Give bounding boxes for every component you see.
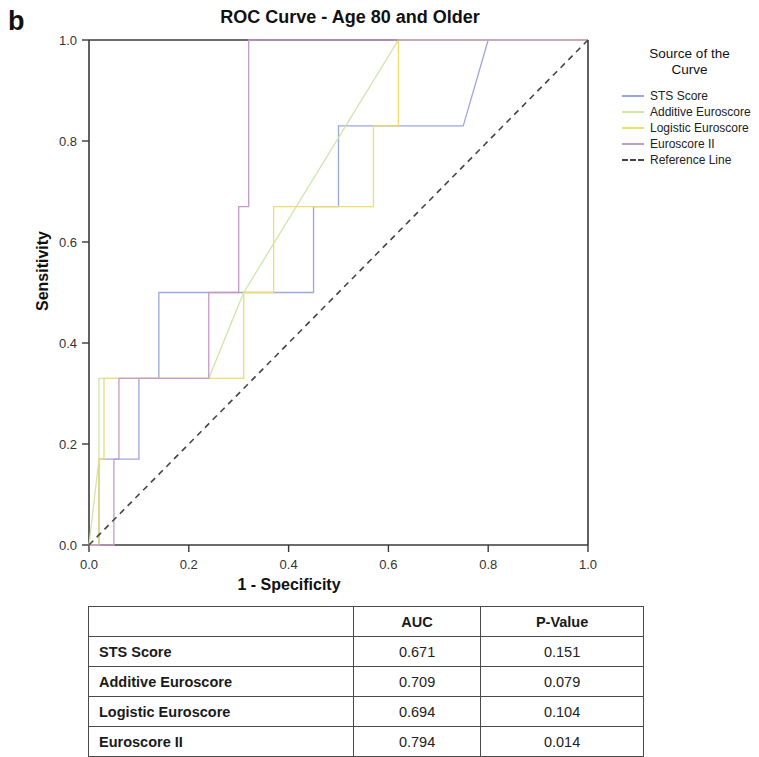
x-tick-label: 0.8 <box>479 557 497 572</box>
legend-item-label: Reference Line <box>650 153 731 167</box>
x-tick-label: 1.0 <box>579 557 597 572</box>
table-cell-auc: 0.709 <box>354 667 481 697</box>
y-axis-title: Sensitivity <box>34 206 52 336</box>
table-cell-model-name: Logistic Euroscore <box>89 697 354 727</box>
y-tick-label: 0.6 <box>59 235 77 250</box>
legend-item-sts-score[interactable]: STS Score <box>622 88 757 103</box>
legend-title: Source of the Curve <box>622 46 757 78</box>
legend-item-reference-line[interactable]: Reference Line <box>622 152 757 167</box>
y-tick-label: 0.4 <box>59 336 77 351</box>
legend-swatch-icon <box>622 127 644 129</box>
table-row: Additive Euroscore0.7090.079 <box>89 667 644 697</box>
legend-title-line1: Source of the <box>622 46 757 62</box>
table-row: STS Score0.6710.151 <box>89 637 644 667</box>
table-cell-model-name: STS Score <box>89 637 354 667</box>
legend-swatch-icon <box>622 95 644 97</box>
legend-item-logistic-euroscore[interactable]: Logistic Euroscore <box>622 120 757 135</box>
legend-item-euroscore-ii[interactable]: Euroscore II <box>622 136 757 151</box>
table-cell-auc: 0.671 <box>354 637 481 667</box>
auc-table: AUC P-Value STS Score0.6710.151Additive … <box>88 606 644 757</box>
x-tick-label: 0.0 <box>80 557 98 572</box>
legend-swatch-icon <box>622 111 644 113</box>
legend-item-additive-euroscore[interactable]: Additive Euroscore <box>622 104 757 119</box>
table-cell-pvalue: 0.079 <box>481 667 644 697</box>
table-header-blank <box>89 607 354 637</box>
table-header-auc: AUC <box>354 607 481 637</box>
table-cell-model-name: Euroscore II <box>89 727 354 757</box>
table-header-row: AUC P-Value <box>89 607 644 637</box>
x-tick-label: 0.2 <box>180 557 198 572</box>
table-cell-pvalue: 0.151 <box>481 637 644 667</box>
table-cell-model-name: Additive Euroscore <box>89 667 354 697</box>
legend-title-line2: Curve <box>622 62 757 78</box>
table-cell-pvalue: 0.104 <box>481 697 644 727</box>
table-row: Euroscore II0.7940.014 <box>89 727 644 757</box>
legend-item-label: Additive Euroscore <box>650 105 751 119</box>
y-tick-label: 0.0 <box>59 538 77 553</box>
table-row: Logistic Euroscore0.6940.104 <box>89 697 644 727</box>
legend-swatch-icon <box>622 159 644 161</box>
y-tick-label: 0.8 <box>59 134 77 149</box>
y-tick-label: 0.2 <box>59 437 77 452</box>
legend-item-label: Euroscore II <box>650 137 715 151</box>
legend-item-label: STS Score <box>650 89 708 103</box>
x-tick-label: 0.6 <box>379 557 397 572</box>
legend: Source of the Curve STS ScoreAdditive Eu… <box>622 46 757 168</box>
legend-items: STS ScoreAdditive EuroscoreLogistic Euro… <box>622 88 757 167</box>
table-header-pvalue: P-Value <box>481 607 644 637</box>
y-tick-label: 1.0 <box>59 33 77 48</box>
legend-item-label: Logistic Euroscore <box>650 121 749 135</box>
table-cell-auc: 0.694 <box>354 697 481 727</box>
table-cell-pvalue: 0.014 <box>481 727 644 757</box>
legend-swatch-icon <box>622 143 644 145</box>
x-axis-title: 1 - Specificity <box>189 576 389 594</box>
x-tick-label: 0.4 <box>280 557 298 572</box>
table-cell-auc: 0.794 <box>354 727 481 757</box>
